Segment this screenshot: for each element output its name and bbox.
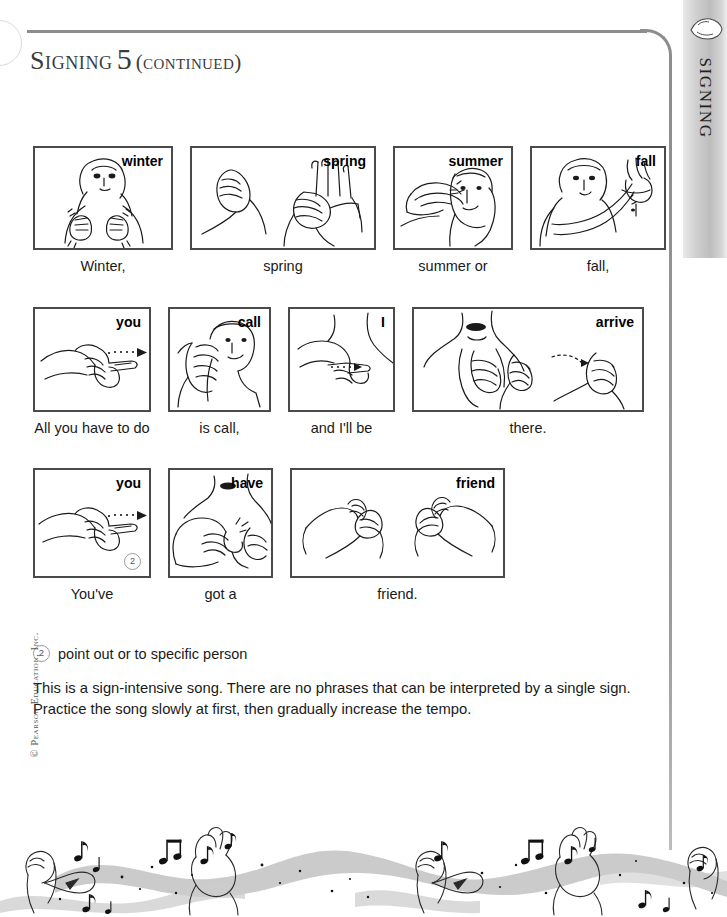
sign-panel-winter[interactable]: winter: [33, 146, 173, 250]
sign-panel-i[interactable]: I: [288, 307, 395, 412]
frame-corner-rounded: [640, 29, 672, 63]
sign-cell-fall[interactable]: fall fall,: [530, 146, 666, 274]
page-title: Signing5(continued): [30, 42, 242, 76]
sign-word-spring: spring: [323, 153, 366, 169]
sign-cell-summer[interactable]: summer summer or: [393, 146, 513, 274]
frame-right-rule: [669, 60, 672, 850]
sign-cell-friend[interactable]: friend friend.: [290, 468, 505, 602]
sign-caption-i: and I'll be: [288, 420, 395, 436]
sign-panel-friend[interactable]: friend: [290, 468, 505, 578]
sign-cell-you-2[interactable]: you 2 You've: [33, 468, 151, 602]
sign-word-fall: fall: [636, 153, 656, 169]
sign-caption-summer: summer or: [393, 258, 513, 274]
footnote: 2 point out or to specific person: [33, 645, 247, 662]
bottom-decorative-band: [0, 805, 727, 917]
side-tab-label: Signing: [695, 32, 715, 164]
sign-cell-arrive[interactable]: arrive there.: [412, 307, 644, 436]
footnote-text: point out or to specific person: [58, 646, 247, 662]
sign-cell-have[interactable]: have got a: [168, 468, 273, 602]
sign-cell-you-1[interactable]: you All you have to do: [33, 307, 151, 436]
sign-caption-spring: spring: [190, 258, 376, 274]
call-row: you All you have to do: [33, 307, 644, 436]
sign-cell-spring[interactable]: spring spring: [190, 146, 376, 274]
sign-caption-fall: fall,: [530, 258, 666, 274]
sign-caption-friend: friend.: [290, 586, 505, 602]
body-paragraph: This is a sign-intensive song. There are…: [33, 678, 655, 720]
page-title-main: Signing: [30, 46, 113, 75]
sign-panel-fall[interactable]: fall: [530, 146, 666, 250]
sign-caption-you-2: You've: [33, 586, 151, 602]
sign-word-call: call: [238, 314, 261, 330]
sign-cell-winter[interactable]: winter Winter,: [33, 146, 173, 274]
page-title-number: 5: [113, 42, 136, 75]
side-tab-signing[interactable]: Signing: [683, 0, 727, 258]
copyright-notice: © Pearson Education, Inc.: [29, 598, 40, 758]
sign-panel-have[interactable]: have: [168, 468, 273, 578]
sign-word-i: I: [381, 314, 385, 330]
page-title-continued: (continued): [136, 50, 242, 74]
sign-cell-call[interactable]: call is call,: [168, 307, 271, 436]
sign-panel-call[interactable]: call: [168, 307, 271, 412]
seasons-row: winter Winter,: [33, 146, 666, 274]
sign-panel-you-1[interactable]: you: [33, 307, 151, 412]
sign-caption-arrive: there.: [412, 420, 644, 436]
sign-word-you-2: you: [116, 475, 141, 491]
page-edge-arc: [0, 20, 22, 66]
sign-caption-you-1: All you have to do: [33, 420, 151, 436]
sign-word-summer: summer: [449, 153, 503, 169]
sign-panel-you-2[interactable]: you 2: [33, 468, 151, 578]
sign-word-friend: friend: [456, 475, 495, 491]
sign-word-winter: winter: [122, 153, 163, 169]
sign-cell-i[interactable]: I and I'll be: [288, 307, 395, 436]
friend-row: you 2 You've: [33, 468, 505, 602]
footnote-marker-2: 2: [124, 553, 141, 570]
frame-top-rule: [27, 30, 647, 33]
sign-word-arrive: arrive: [596, 314, 634, 330]
sign-caption-winter: Winter,: [33, 258, 173, 274]
music-hands-band-illustration: [0, 805, 727, 917]
sign-panel-summer[interactable]: summer: [393, 146, 513, 250]
sign-caption-call: is call,: [168, 420, 271, 436]
sign-word-you-1: you: [116, 314, 141, 330]
sign-panel-arrive[interactable]: arrive: [412, 307, 644, 412]
sign-caption-have: got a: [168, 586, 273, 602]
sign-word-have: have: [231, 475, 263, 491]
page-frame: [0, 0, 727, 917]
sign-i-illustration: [290, 309, 395, 412]
sign-panel-spring[interactable]: spring: [190, 146, 376, 250]
